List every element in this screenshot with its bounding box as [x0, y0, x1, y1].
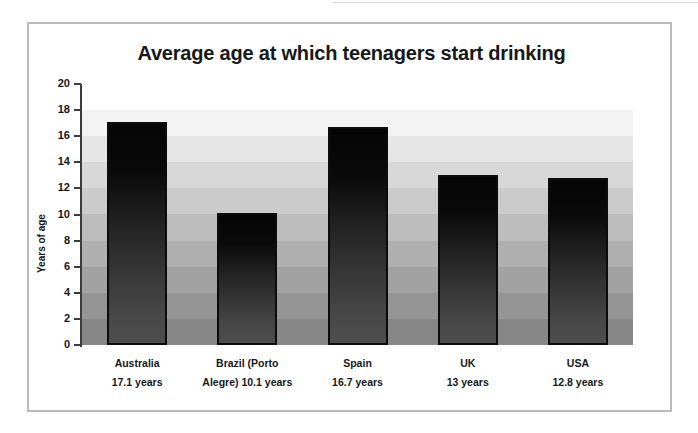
x-axis-label-value: 17.1 years — [82, 373, 192, 392]
bar-usa — [548, 178, 608, 345]
y-axis-tick — [74, 83, 81, 85]
bar-spain — [328, 127, 388, 345]
bar-australia — [107, 122, 167, 345]
x-axis-label: Australia17.1 years — [82, 354, 192, 402]
x-axis-label: USA12.8 years — [523, 354, 633, 402]
y-axis-tick-label: 4 — [29, 287, 70, 298]
bar-brazil-porto-alegre — [217, 213, 277, 345]
y-axis-tick — [74, 266, 81, 268]
scan-artifact-line — [332, 2, 698, 3]
y-axis-tick — [74, 292, 81, 294]
y-axis-tick-label: 6 — [29, 261, 70, 272]
y-axis-tick — [74, 109, 81, 111]
y-axis-tick-label: 16 — [29, 130, 70, 141]
x-axis-label-value: Alegre) 10.1 years — [192, 373, 302, 392]
y-axis-tick — [74, 318, 81, 320]
y-axis-tick-label: 10 — [29, 209, 70, 220]
x-axis-label-value: 12.8 years — [523, 373, 633, 392]
x-axis-label-name: Australia — [82, 354, 192, 373]
y-axis-tick — [74, 135, 81, 137]
x-axis-label-value: 13 years — [413, 373, 523, 392]
y-axis-tick — [74, 240, 81, 242]
y-axis-tick-label: 18 — [29, 104, 70, 115]
bar-uk — [438, 175, 498, 345]
x-axis-label-value: 16.7 years — [302, 373, 412, 392]
x-axis-label-name: UK — [413, 354, 523, 373]
x-axis-label: Brazil (PortoAlegre) 10.1 years — [192, 354, 302, 402]
y-axis-tick — [74, 344, 81, 346]
y-axis-tick-label: 8 — [29, 235, 70, 246]
x-axis-label: Spain16.7 years — [302, 354, 412, 402]
y-axis-tick-label: 12 — [29, 182, 70, 193]
y-axis-tick-label: 20 — [29, 78, 70, 89]
x-axis-label-name: Spain — [302, 354, 412, 373]
y-axis-tick — [74, 161, 81, 163]
y-axis-tick-label: 14 — [29, 156, 70, 167]
bars-layer — [82, 84, 633, 347]
y-axis-tick — [74, 187, 81, 189]
y-axis-tick-label: 0 — [29, 339, 70, 350]
y-axis-tick-label: 2 — [29, 313, 70, 324]
x-axis-label-name: USA — [523, 354, 633, 373]
x-axis-label-name: Brazil (Porto — [192, 354, 302, 373]
x-axis-label: UK13 years — [413, 354, 523, 402]
chart-figure-frame: Average age at which teenagers start dri… — [27, 22, 672, 412]
x-axis-labels: Australia17.1 yearsBrazil (PortoAlegre) … — [82, 354, 633, 402]
y-axis-tick — [74, 214, 81, 216]
chart-title: Average age at which teenagers start dri… — [29, 42, 674, 65]
